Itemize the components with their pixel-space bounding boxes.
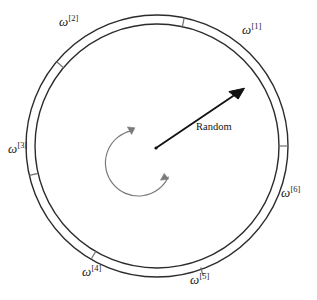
segment-tick-5 — [91, 251, 96, 259]
segment-tick-3 — [57, 62, 64, 68]
roulette-wheel-figure — [0, 0, 317, 300]
rotation-arrowhead-bottom — [161, 173, 169, 180]
rotation-arc-group — [105, 127, 168, 196]
segment-label-4: ω[4] — [82, 264, 101, 278]
segment-label-3: ω[3] — [8, 141, 27, 155]
rotation-arc — [105, 131, 168, 196]
segment-label-1: ω[1] — [242, 22, 261, 36]
segment-label-4-superscript: [4] — [91, 263, 101, 273]
segment-label-5: ω[5] — [190, 272, 209, 286]
segment-label-3-symbol: ω — [8, 141, 17, 156]
segment-tick-2 — [182, 18, 184, 27]
segment-label-6-symbol: ω — [281, 185, 290, 200]
pointer-hub — [154, 146, 157, 149]
segment-label-6: ω[6] — [281, 185, 300, 199]
wheel-inner-circle — [35, 24, 279, 268]
segment-label-5-superscript: [5] — [199, 271, 209, 281]
segment-label-2-symbol: ω — [59, 14, 68, 29]
random-pointer-label: Random — [196, 122, 232, 133]
segment-label-6-superscript: [6] — [290, 184, 300, 194]
segment-label-2-superscript: [2] — [68, 13, 78, 23]
segment-label-2: ω[2] — [59, 14, 78, 28]
segment-tick-4 — [29, 173, 38, 175]
segment-label-1-symbol: ω — [242, 22, 251, 37]
segment-label-1-superscript: [1] — [251, 21, 261, 31]
wheel-outer-circle — [26, 15, 288, 277]
segment-label-3-superscript: [3] — [17, 140, 27, 150]
pointer-shaft — [156, 92, 239, 148]
segment-label-5-symbol: ω — [190, 272, 199, 287]
rotation-arrowhead-left — [127, 127, 134, 134]
random-pointer-arrow — [154, 88, 244, 149]
segment-label-4-symbol: ω — [82, 264, 91, 279]
